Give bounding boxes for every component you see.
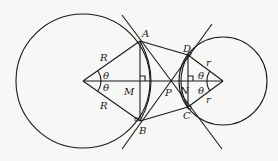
label-B: B: [138, 125, 146, 136]
right-angle-N: [188, 76, 193, 81]
label-C: C: [183, 110, 191, 121]
geometry-diagram: A B C D M N P R R r r θ θ θ θ: [0, 0, 278, 161]
angle-arc-left-upper: [98, 71, 101, 81]
label-theta-right-lower: θ: [198, 85, 204, 96]
label-R-lower: R: [99, 100, 108, 111]
label-A: A: [141, 28, 149, 39]
label-theta-left-lower: θ: [103, 82, 109, 93]
angle-arc-left-lower: [98, 81, 101, 91]
label-theta-right-upper: θ: [198, 70, 204, 81]
label-theta-left-upper: θ: [103, 70, 109, 81]
right-angle-M: [140, 76, 145, 81]
label-D: D: [182, 43, 191, 54]
radius-OA: [83, 41, 140, 81]
label-M: M: [123, 86, 135, 97]
angle-arc-right-upper: [207, 71, 210, 81]
label-N: N: [179, 85, 190, 96]
angle-arc-right-lower: [207, 81, 210, 91]
label-R-upper: R: [99, 52, 108, 63]
label-r-upper: r: [206, 57, 212, 68]
label-r-lower: r: [206, 94, 212, 105]
label-P: P: [164, 87, 172, 98]
